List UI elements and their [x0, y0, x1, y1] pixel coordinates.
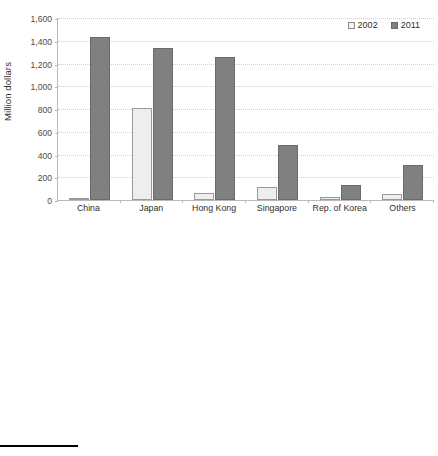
bar-groups-top [58, 18, 434, 200]
x-axis-label: Others [371, 203, 434, 213]
plot-area-top: 1,6001,4001,2001,0008006004002000 [57, 18, 434, 201]
legend-swatch-2002-icon [348, 22, 355, 29]
y-tick-label: 800 [38, 105, 52, 115]
footnote-divider [0, 445, 78, 447]
bar-group [183, 18, 246, 200]
bar-2011[interactable] [341, 185, 361, 200]
y-tick-label: 400 [38, 151, 52, 161]
legend-top: 2002 2011 [348, 20, 420, 30]
legend-item-2002[interactable]: 2002 [348, 20, 378, 30]
bar-2002[interactable] [69, 198, 89, 200]
bar-group [246, 18, 309, 200]
y-tick-label: 1,200 [30, 60, 52, 70]
y-tick-label: 1,600 [30, 14, 52, 24]
x-axis-label: Hong Kong [183, 203, 246, 213]
bar-2002[interactable] [194, 193, 214, 200]
bar-2002[interactable] [320, 197, 340, 200]
legend-label-2002: 2002 [358, 20, 378, 30]
y-tick-label: 600 [38, 128, 52, 138]
y-tick-label: 0 [47, 196, 52, 206]
x-axis-label: Singapore [245, 203, 308, 213]
chart-million-dollars: Million dollars 1,6001,4001,2001,0008006… [0, 0, 438, 228]
bar-2011[interactable] [90, 37, 110, 200]
bar-group [121, 18, 184, 200]
legend-swatch-2011-icon [391, 22, 398, 29]
bar-2011[interactable] [278, 145, 298, 200]
x-axis-label: Japan [120, 203, 183, 213]
legend-item-2011[interactable]: 2011 [391, 20, 420, 30]
bar-2011[interactable] [153, 48, 173, 200]
y-tick-label: 200 [38, 173, 52, 183]
legend-label-2011: 2011 [401, 20, 420, 30]
y-tick-mark [55, 201, 58, 202]
bar-2002[interactable] [132, 108, 152, 200]
bar-2011[interactable] [215, 57, 235, 200]
bar-2011[interactable] [403, 165, 423, 200]
bar-2002[interactable] [382, 194, 402, 200]
x-axis-label: China [57, 203, 120, 213]
y-tick-label: 1,400 [30, 37, 52, 47]
bar-2002[interactable] [257, 187, 277, 200]
chart-million-litres: Million litres 400350300250200150100500 … [0, 228, 438, 440]
bar-group [309, 18, 372, 200]
bar-group [58, 18, 121, 200]
y-tick-label: 1,000 [30, 82, 52, 92]
y-axis-title-top: Million dollars [2, 62, 13, 121]
x-axis-label: Rep. of Korea [308, 203, 371, 213]
bar-group [371, 18, 434, 200]
x-axis-labels-top: ChinaJapanHong KongSingaporeRep. of Kore… [57, 203, 434, 213]
